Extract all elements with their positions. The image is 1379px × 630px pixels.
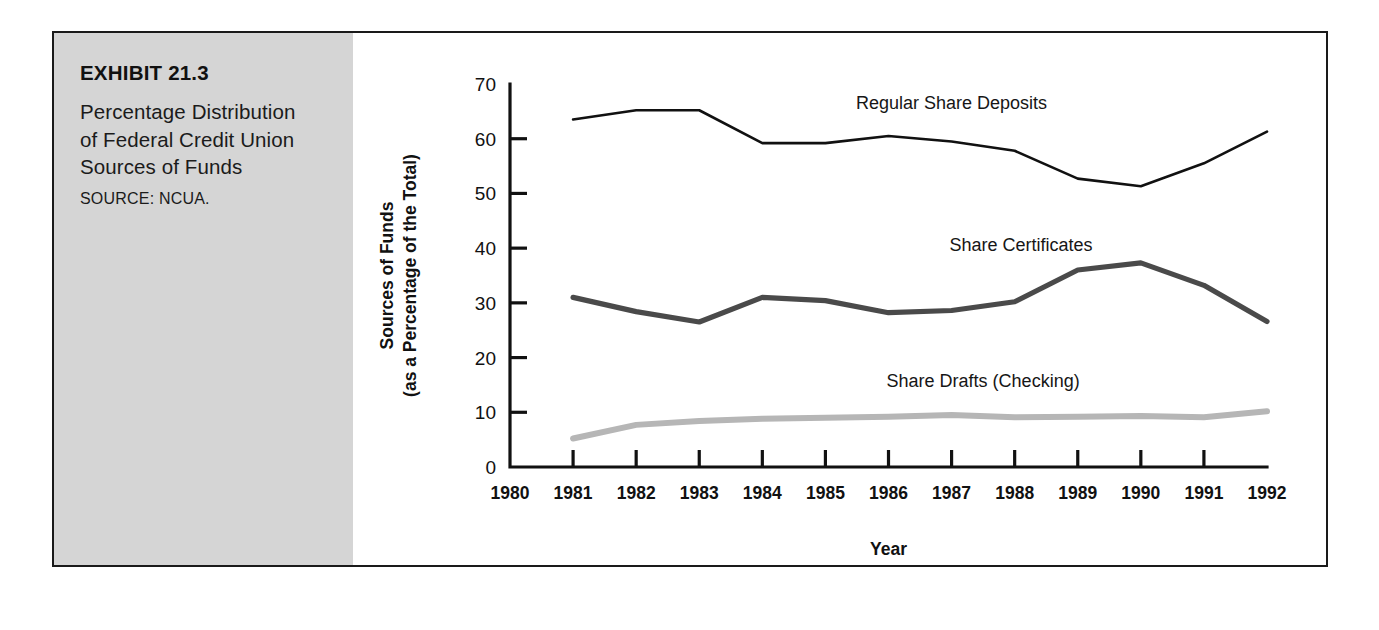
y-axis-tick-label: 0 bbox=[485, 457, 496, 478]
series-label-2: Share Certificates bbox=[949, 235, 1092, 255]
y-axis-title-line1: Sources of Funds bbox=[377, 201, 397, 349]
x-axis-tick-label: 1981 bbox=[554, 483, 593, 503]
x-axis-tick-label: 1992 bbox=[1248, 483, 1287, 503]
y-axis-tick-label: 30 bbox=[475, 293, 496, 314]
exhibit-title: Percentage Distribution of Federal Credi… bbox=[80, 98, 305, 181]
series-line-2 bbox=[573, 263, 1267, 322]
x-axis-title: Year bbox=[870, 539, 907, 559]
x-axis-tick-label: 1988 bbox=[995, 483, 1034, 503]
series-label-3: Share Drafts (Checking) bbox=[887, 371, 1080, 391]
exhibit-frame: EXHIBIT 21.3 Percentage Distribution of … bbox=[52, 31, 1328, 567]
line-chart: 0102030405060701980198119821983198419851… bbox=[353, 33, 1326, 565]
caption-panel: EXHIBIT 21.3 Percentage Distribution of … bbox=[54, 33, 353, 565]
x-axis-tick-label: 1989 bbox=[1058, 483, 1097, 503]
chart-axes bbox=[510, 84, 1267, 467]
y-axis-title-line2: (as a Percentage of the Total) bbox=[400, 154, 420, 397]
x-axis-tick-label: 1980 bbox=[491, 483, 530, 503]
y-axis-tick-label: 50 bbox=[475, 183, 496, 204]
x-axis-tick-label: 1982 bbox=[617, 483, 656, 503]
x-axis-tick-label: 1984 bbox=[743, 483, 782, 503]
x-axis-tick-label: 1986 bbox=[869, 483, 908, 503]
series-label-1: Regular Share Deposits bbox=[856, 93, 1047, 113]
y-axis-tick-label: 10 bbox=[475, 402, 496, 423]
y-axis-tick-label: 40 bbox=[475, 238, 496, 259]
x-axis-tick-label: 1991 bbox=[1184, 483, 1223, 503]
series-line-1 bbox=[573, 110, 1267, 186]
x-axis-tick-label: 1983 bbox=[680, 483, 719, 503]
y-axis-tick-label: 70 bbox=[475, 74, 496, 95]
y-axis-tick-label: 60 bbox=[475, 129, 496, 150]
chart-panel: 0102030405060701980198119821983198419851… bbox=[353, 33, 1326, 565]
x-axis-tick-label: 1987 bbox=[932, 483, 971, 503]
x-axis-tick-label: 1990 bbox=[1121, 483, 1160, 503]
exhibit-source: SOURCE: NCUA. bbox=[80, 190, 331, 208]
series-line-3 bbox=[573, 411, 1267, 438]
x-axis-tick-label: 1985 bbox=[806, 483, 845, 503]
exhibit-number: EXHIBIT 21.3 bbox=[80, 61, 331, 85]
y-axis-tick-label: 20 bbox=[475, 348, 496, 369]
